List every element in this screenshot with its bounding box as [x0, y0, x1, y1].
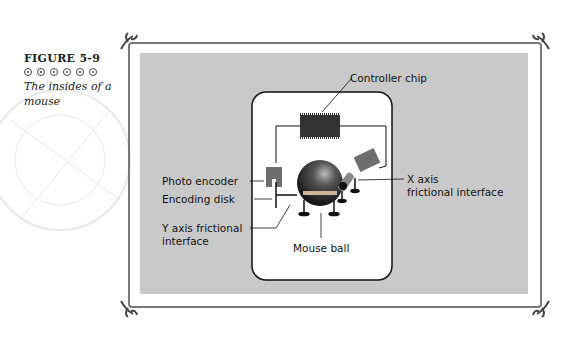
label-x-axis-1: X axis [407, 173, 439, 186]
mouse-ball [297, 160, 343, 206]
label-mouse-ball: Mouse ball [293, 242, 349, 255]
mouse-diagram [0, 0, 573, 338]
label-photo-encoder: Photo encoder [162, 175, 238, 188]
label-y-axis-2: interface [162, 235, 209, 248]
label-x-axis-2: frictional interface [407, 186, 503, 199]
label-controller-chip: Controller chip [350, 72, 427, 85]
label-encoding-disk: Encoding disk [162, 193, 235, 206]
controller-chip [300, 115, 340, 137]
label-y-axis-1: Y axis frictional [162, 222, 242, 235]
